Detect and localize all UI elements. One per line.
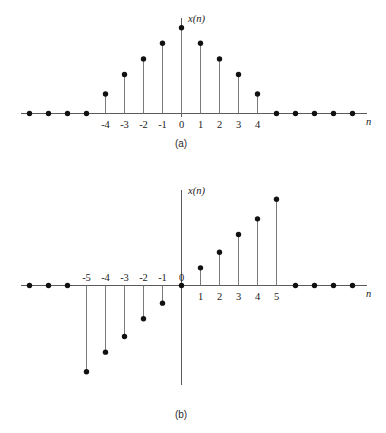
tick-label-neg4: -4 <box>101 272 110 283</box>
tick-label-2: 2 <box>217 119 222 130</box>
stem-marker-n2 <box>217 249 222 254</box>
stem-marker-n1 <box>198 265 203 270</box>
panel-a: x(n) n -4-3-2-101234 (a) <box>21 13 371 149</box>
panel-b: x(n) n -5-4-3-2-1012345 (b) <box>21 185 371 420</box>
tick-label-5: 5 <box>274 291 279 302</box>
stem-marker-n5 <box>274 197 279 202</box>
zero-marker-n5 <box>274 111 279 116</box>
tick-label-1: 1 <box>198 291 203 302</box>
tick-label-neg4: -4 <box>101 119 110 130</box>
tick-label-neg1: -1 <box>158 119 167 130</box>
n-axis-label-a: n <box>366 116 371 127</box>
zero-marker-n8 <box>331 283 336 288</box>
tick-label-4: 4 <box>255 119 261 130</box>
tick-label-neg1: -1 <box>158 272 167 283</box>
tick-label-0: 0 <box>179 272 184 283</box>
zero-marker-n9 <box>350 283 355 288</box>
zero-marker-n9 <box>350 111 355 116</box>
panel-caption-b: (b) <box>175 409 187 420</box>
tick-label-neg2: -2 <box>139 272 148 283</box>
stem-marker-n-2 <box>141 316 146 321</box>
figure-root: x(n) n -4-3-2-101234 (a) x(n) n -5-4-3-2… <box>0 0 386 433</box>
zero-marker-n7 <box>312 283 317 288</box>
stem-marker-n-2 <box>141 56 146 61</box>
zero-marker-n6 <box>293 111 298 116</box>
tick-label-1: 1 <box>198 119 203 130</box>
zero-marker-n-5 <box>84 111 89 116</box>
stem-marker-n2 <box>217 56 222 61</box>
zero-marker-n7 <box>312 111 317 116</box>
n-axis-label-b: n <box>366 288 371 299</box>
tick-label-3: 3 <box>236 119 241 130</box>
signal-label-a: x(n) <box>187 13 205 25</box>
stem-marker-n-4 <box>103 349 108 354</box>
stem-marker-n-1 <box>160 41 165 46</box>
stem-marker-n-1 <box>160 300 165 305</box>
stem-marker-n-3 <box>122 334 127 339</box>
zero-marker-n6 <box>293 283 298 288</box>
zero-marker-n-8 <box>27 283 32 288</box>
tick-label-0: 0 <box>179 119 184 130</box>
zero-marker-n0 <box>179 283 184 288</box>
zero-marker-n-6 <box>65 283 70 288</box>
stem-marker-n4 <box>255 91 260 96</box>
zero-marker-n8 <box>331 111 336 116</box>
tick-label-neg3: -3 <box>120 119 129 130</box>
signal-symmetry-figure: x(n) n -4-3-2-101234 (a) x(n) n -5-4-3-2… <box>0 0 386 433</box>
zero-marker-n-7 <box>46 283 51 288</box>
stem-marker-n-5 <box>84 369 89 374</box>
stems-group-a <box>27 25 355 116</box>
stem-marker-n-3 <box>122 72 127 77</box>
zero-marker-n-7 <box>46 111 51 116</box>
stem-marker-n1 <box>198 41 203 46</box>
stem-marker-n0 <box>179 25 184 30</box>
tick-label-neg3: -3 <box>120 272 129 283</box>
zero-marker-n-6 <box>65 111 70 116</box>
signal-label-b: x(n) <box>187 185 205 197</box>
stem-marker-n4 <box>255 216 260 221</box>
tick-label-4: 4 <box>255 291 261 302</box>
tick-label-neg5: -5 <box>82 272 91 283</box>
zero-marker-n-8 <box>27 111 32 116</box>
stem-marker-n-4 <box>103 91 108 96</box>
stem-marker-n3 <box>236 232 241 237</box>
tick-labels-group-a: -4-3-2-101234 <box>101 119 261 130</box>
stem-marker-n3 <box>236 72 241 77</box>
tick-label-2: 2 <box>217 291 222 302</box>
tick-label-3: 3 <box>236 291 241 302</box>
tick-label-neg2: -2 <box>139 119 148 130</box>
panel-caption-a: (a) <box>175 138 187 149</box>
